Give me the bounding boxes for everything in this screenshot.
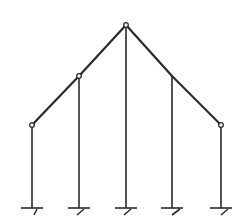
rafter-left-lower: [32, 76, 79, 125]
hinge-icon: [219, 123, 224, 128]
rafter-left-upper: [79, 25, 126, 76]
support-5: [210, 208, 232, 215]
support-2: [68, 208, 90, 215]
rafter-right-lower: [172, 76, 221, 125]
fixed-supports: [21, 208, 232, 215]
columns: [32, 25, 221, 208]
hinge-icon: [30, 123, 35, 128]
frame-diagram: [0, 0, 248, 223]
hinge-icon: [124, 23, 129, 28]
rafter-right-upper: [126, 25, 172, 76]
support-1: [21, 208, 43, 215]
support-3: [115, 208, 137, 215]
hinge-icon: [77, 74, 82, 79]
support-4: [161, 208, 183, 215]
